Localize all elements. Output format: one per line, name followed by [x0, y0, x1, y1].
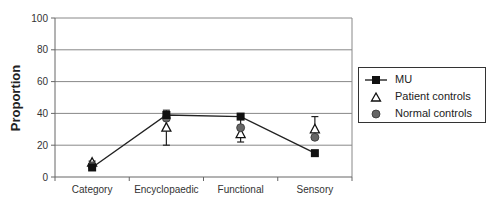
- legend-item-normal-controls: Normal controls: [359, 106, 485, 122]
- circle-marker-icon: [237, 124, 245, 132]
- y-tick-label: 0: [42, 172, 48, 183]
- circle-marker-icon: [363, 106, 389, 122]
- series-lines: [92, 115, 315, 167]
- square-marker-icon: [363, 72, 389, 88]
- y-tick-label: 20: [37, 140, 49, 151]
- y-tick-label: 80: [37, 44, 49, 55]
- series-markers: [88, 111, 320, 171]
- square-marker-icon: [162, 111, 170, 119]
- series-line: [92, 115, 315, 167]
- x-tick-label: Encyclopaedic: [134, 184, 198, 195]
- triangle-marker-icon: [162, 123, 171, 132]
- circle-marker-icon: [311, 133, 319, 141]
- y-tick-label: 40: [37, 108, 49, 119]
- x-tick-label: Sensory: [297, 184, 334, 195]
- y-tick-label: 100: [31, 13, 48, 24]
- y-axis-label: Proportion: [8, 65, 23, 131]
- legend-label: Patient controls: [395, 90, 471, 102]
- square-marker-icon: [88, 163, 96, 171]
- legend: MU Patient controls Normal controls: [358, 67, 486, 123]
- square-marker-icon: [311, 149, 319, 157]
- triangle-marker-icon: [363, 89, 389, 105]
- y-axis-ticks: 020406080100: [31, 13, 55, 183]
- x-axis-ticks: CategoryEncyclopaedicFunctionalSensory: [55, 177, 352, 195]
- legend-label: MU: [395, 73, 412, 85]
- x-tick-label: Functional: [218, 184, 264, 195]
- legend-label: Normal controls: [395, 107, 472, 119]
- legend-item-mu: MU: [359, 72, 485, 88]
- axes: [55, 18, 352, 177]
- triangle-marker-icon: [310, 124, 319, 133]
- square-marker-icon: [237, 113, 245, 121]
- x-tick-label: Category: [72, 184, 113, 195]
- y-tick-label: 60: [37, 76, 49, 87]
- gridlines: [55, 18, 352, 145]
- legend-item-patient-controls: Patient controls: [359, 89, 485, 105]
